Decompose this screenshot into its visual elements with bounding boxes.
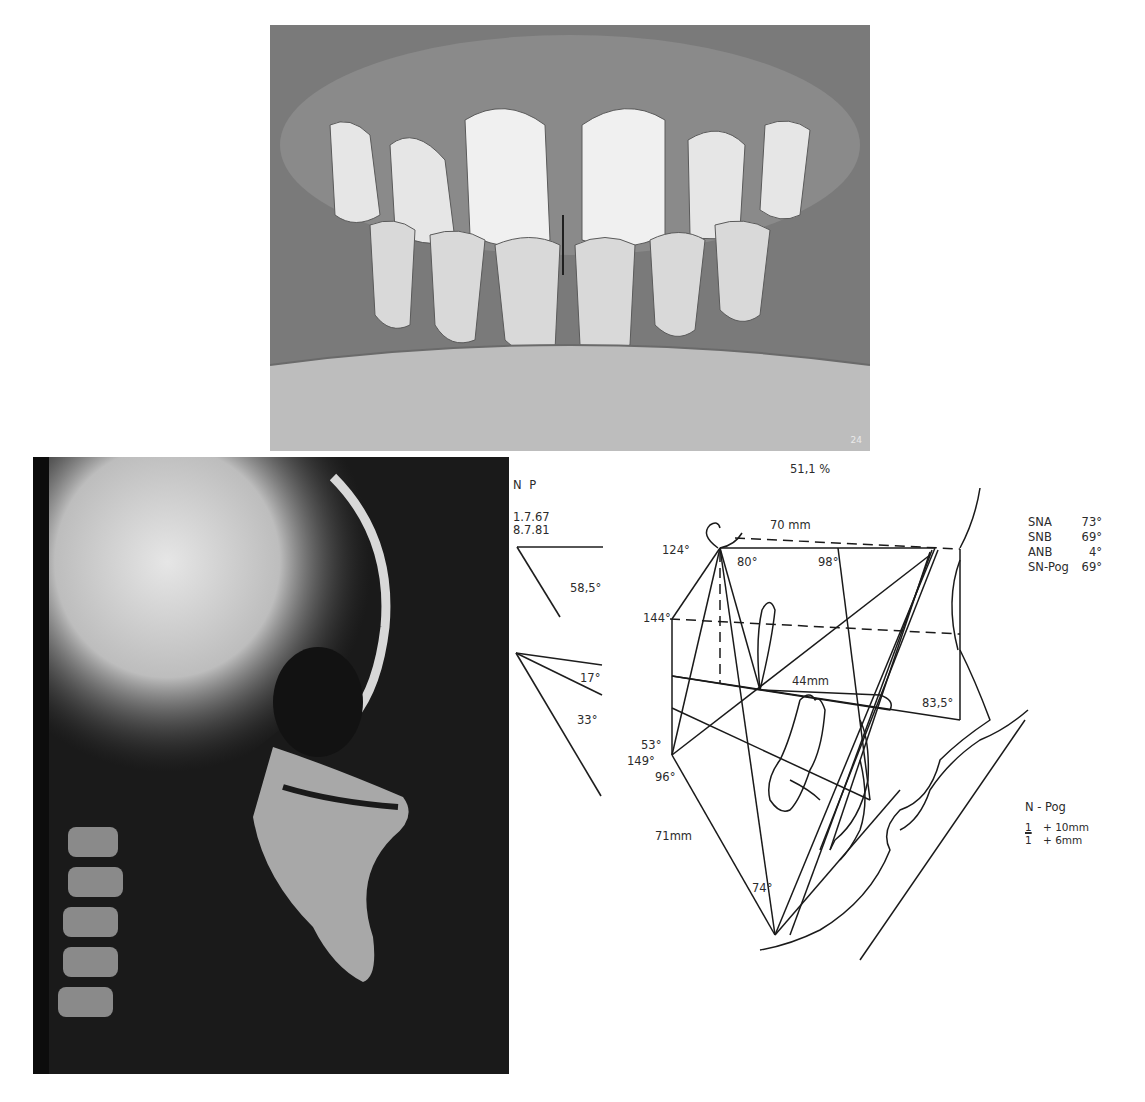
angle-144-label: 144° bbox=[643, 611, 671, 625]
angle-124-label: 124° bbox=[662, 543, 690, 557]
angle-74-label: 74° bbox=[752, 881, 772, 895]
measure-value: 69° bbox=[1080, 560, 1102, 575]
lower-incisor-row: 1 + 6mm bbox=[1025, 834, 1089, 847]
measure-value: 73° bbox=[1080, 515, 1102, 530]
table-row-anb: ANB4° bbox=[1028, 545, 1102, 560]
angle-83-5-label: 83,5° bbox=[922, 696, 953, 710]
measure-name: SNB bbox=[1028, 530, 1080, 545]
cephalometric-tracing bbox=[0, 0, 1145, 1102]
measure-value: 69° bbox=[1080, 530, 1102, 545]
measure-value: 4° bbox=[1080, 545, 1102, 560]
incisor-n-pog-block: N - Pog 1 + 10mm 1 + 6mm bbox=[1025, 800, 1089, 847]
measure-name: ANB bbox=[1028, 545, 1080, 560]
lower-incisor-value: + 6mm bbox=[1043, 834, 1082, 847]
angle-80-label: 80° bbox=[737, 555, 757, 569]
table-row-sna: SNA73° bbox=[1028, 515, 1102, 530]
angle-149-label: 149° bbox=[627, 754, 655, 768]
table-row-snb: SNB69° bbox=[1028, 530, 1102, 545]
table-row-sn-pog: SN-Pog69° bbox=[1028, 560, 1102, 575]
distance-44mm-label: 44mm bbox=[792, 674, 829, 688]
n-pog-title: N - Pog bbox=[1025, 800, 1089, 815]
measure-name: SN-Pog bbox=[1028, 560, 1080, 575]
angle-98-label: 98° bbox=[818, 555, 838, 569]
upper-incisor-value: + 10mm bbox=[1043, 821, 1089, 834]
measure-name: SNA bbox=[1028, 515, 1080, 530]
lower-incisor-symbol: 1 bbox=[1025, 834, 1043, 847]
upper-incisor-symbol: 1 bbox=[1025, 821, 1043, 834]
upper-incisor-row: 1 + 10mm bbox=[1025, 821, 1089, 834]
distance-70mm-label: 70 mm bbox=[770, 518, 811, 532]
distance-71mm-label: 71mm bbox=[655, 829, 692, 843]
angle-96-label: 96° bbox=[655, 770, 675, 784]
angle-measurements-table: SNA73° SNB69° ANB4° SN-Pog69° bbox=[1028, 515, 1102, 575]
angle-53-label: 53° bbox=[641, 738, 661, 752]
